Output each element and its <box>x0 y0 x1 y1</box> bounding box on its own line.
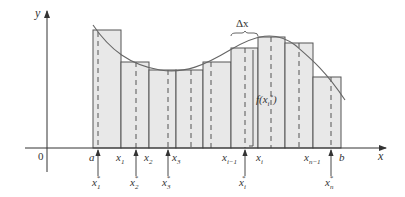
svg-text:xi: xi <box>255 151 263 166</box>
svg-text:b: b <box>339 151 345 163</box>
sample-labels: x1* x2* x3* xi* xn* <box>91 174 334 191</box>
rect-5 <box>203 62 231 148</box>
svg-text:x1*: x1* <box>91 174 100 191</box>
origin-label: 0 <box>38 150 44 162</box>
riemann-rectangles <box>93 30 341 148</box>
rect-2 <box>121 62 149 148</box>
y-axis-label: y <box>34 6 41 20</box>
svg-text:xn*: xn* <box>324 174 334 191</box>
svg-text:x1: x1 <box>115 151 124 166</box>
svg-text:x3*: x3* <box>161 174 171 191</box>
svg-text:x2: x2 <box>143 151 153 166</box>
rect-8 <box>285 43 313 148</box>
delta-x-annotation: Δx <box>231 17 258 36</box>
riemann-sum-diagram: y x 0 Δx f(xi*) a x1 x2 x3 xi−1 xi xn−1 … <box>0 0 405 197</box>
svg-text:x2*: x2* <box>129 174 139 191</box>
svg-text:a: a <box>89 151 95 163</box>
x-axis-label: x <box>377 149 384 163</box>
svg-text:xi−1: xi−1 <box>221 151 237 166</box>
rect-3 <box>149 70 176 148</box>
svg-text:x3: x3 <box>171 151 181 166</box>
rect-1 <box>93 30 121 148</box>
svg-text:xn−1: xn−1 <box>303 151 321 166</box>
rect-4 <box>176 70 203 148</box>
partition-labels: a x1 x2 x3 xi−1 xi xn−1 b <box>89 151 345 166</box>
svg-text:xi*: xi* <box>238 174 246 191</box>
svg-text:Δx: Δx <box>236 17 249 29</box>
sample-arrows <box>98 150 331 176</box>
